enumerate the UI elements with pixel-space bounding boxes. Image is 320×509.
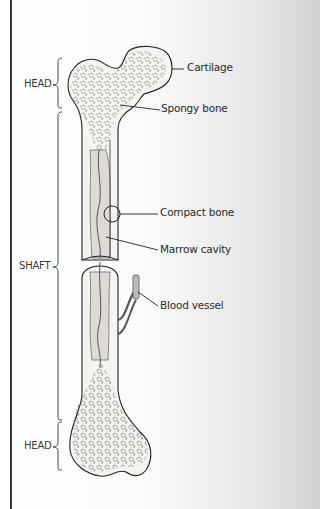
callout-cartilage: Cartilage <box>187 61 233 73</box>
brace-top-head <box>53 58 62 108</box>
callout-compact-bone: Compact bone <box>160 206 234 218</box>
brace-shaft <box>53 112 62 420</box>
callout-spongy-bone: Spongy bone <box>161 102 228 114</box>
region-label-top-head: HEAD <box>24 78 52 89</box>
region-label-shaft: SHAFT <box>19 260 50 271</box>
callout-marrow-cavity: Marrow cavity <box>160 243 231 255</box>
region-label-bottom-head: HEAD <box>24 440 52 451</box>
brace-bottom-head <box>53 422 62 470</box>
callout-blood-vessel: Blood vessel <box>160 299 224 311</box>
